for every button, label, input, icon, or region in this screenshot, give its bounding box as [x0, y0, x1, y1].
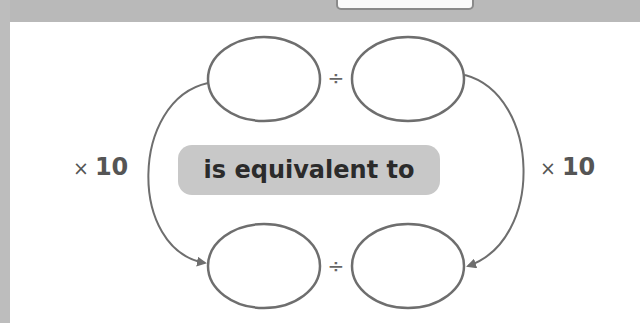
top-divide-sign: ÷ [326, 66, 346, 90]
top-left-blank[interactable] [208, 37, 320, 121]
right-arrow-arc [465, 75, 524, 266]
right-multiplier-label: ×10 [540, 153, 595, 181]
right-multiplier-value: 10 [562, 153, 595, 181]
top-right-blank[interactable] [352, 37, 464, 121]
left-multiplier-value: 10 [95, 153, 128, 181]
equivalence-label-pill: is equivalent to [178, 145, 440, 195]
bottom-left-blank[interactable] [208, 224, 320, 308]
left-multiplier-label: ×10 [73, 153, 128, 181]
bottom-divide-sign: ÷ [326, 254, 346, 278]
right-times-sign: × [540, 157, 556, 179]
equivalence-label: is equivalent to [204, 156, 415, 184]
left-times-sign: × [73, 157, 89, 179]
bottom-right-blank[interactable] [352, 224, 464, 308]
